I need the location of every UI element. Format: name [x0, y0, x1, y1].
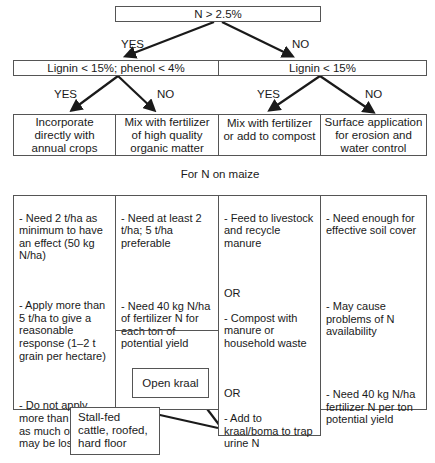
col3-text: - Feed to livestock and recycle manure O… — [219, 196, 320, 463]
outcome-label: Mix with fertilizer or add to compost — [223, 117, 316, 143]
col4-p2: - May cause problems of N availability — [326, 300, 421, 338]
col2-p1: - Need at least 2 t/ha; 5 t/ha preferabl… — [121, 212, 213, 250]
root-label: N > 2.5% — [194, 8, 242, 21]
maize-heading: For N on maize — [13, 167, 427, 181]
outcome-label: Mix with fertilizer of high quality orga… — [120, 116, 214, 155]
maize-col-1: - Need 2 t/ha as minimum to have an effe… — [13, 195, 116, 410]
stall-fed-label: Stall-fed cattle, roofed, hard floor — [78, 411, 148, 449]
arrow-root-no — [222, 22, 292, 56]
l2b-yes-label: YES — [257, 88, 280, 101]
col2-text: - Need at least 2 t/ha; 5 t/ha preferabl… — [116, 196, 218, 366]
outcome-incorporate: Incorporate directly with annual crops — [14, 115, 116, 155]
outcome-label: Incorporate directly with annual crops — [17, 116, 112, 155]
col4-p3: - Need 40 kg N/ha fertilizer N per ton p… — [326, 388, 421, 426]
outcome-mix-high-quality: Mix with fertilizer of high quality orga… — [116, 115, 219, 155]
root-node: N > 2.5% — [115, 6, 321, 22]
arrow-l2a-yes — [72, 76, 118, 110]
outcome-mix-compost: Mix with fertilizer or add to compost — [219, 115, 321, 155]
branch-yes-label: YES — [121, 38, 144, 51]
level2-node-right: Lignin < 15% — [219, 61, 426, 75]
maize-col-4: - Need enough for effective soil cover -… — [320, 195, 427, 410]
stall-fed-callout: Stall-fed cattle, roofed, hard floor — [70, 407, 160, 455]
level2-left-label: Lignin < 15%; phenol < 4% — [47, 62, 184, 75]
col4-p1: - Need enough for effective soil cover — [326, 212, 421, 237]
maize-heading-text: For N on maize — [181, 168, 260, 181]
col3-or-1: OR — [224, 287, 315, 300]
col3-p1: - Feed to livestock and recycle manure — [224, 212, 315, 250]
l2a-no-label: NO — [157, 88, 174, 101]
col2-divider — [116, 330, 218, 331]
col4-text: - Need enough for effective soil cover -… — [321, 196, 426, 441]
outcomes-row: Incorporate directly with annual crops M… — [13, 114, 427, 156]
level2-right-label: Lignin < 15% — [289, 62, 356, 75]
outcome-surface-application: Surface application for erosion and wate… — [321, 115, 426, 155]
branch-no-label: NO — [292, 38, 309, 51]
arrow-l2a-no — [118, 76, 154, 110]
open-kraal-label: Open kraal — [142, 377, 198, 390]
maize-col-3: - Feed to livestock and recycle manure O… — [218, 195, 321, 436]
outcome-label: Surface application for erosion and wate… — [323, 116, 424, 155]
open-kraal-callout: Open kraal — [132, 368, 209, 398]
l2b-no-label: NO — [365, 88, 382, 101]
col3-or-2: OR — [224, 387, 315, 400]
l2a-yes-label: YES — [54, 88, 77, 101]
col1-p1: - Need 2 t/ha as minimum to have an effe… — [19, 212, 110, 262]
col2-p2: - Need 40 kg N/ha of fertilizer N for ea… — [121, 300, 213, 350]
col3-p3: - Compost with manure or household waste — [224, 312, 315, 350]
col1-p2: - Apply more than 5 t/ha to give a reaso… — [19, 299, 110, 362]
level2-row: Lignin < 15%; phenol < 4% Lignin < 15% — [13, 60, 427, 76]
level2-node-left: Lignin < 15%; phenol < 4% — [14, 61, 219, 75]
col3-p5: - Add to kraal/boma to trap urine N — [224, 412, 315, 450]
